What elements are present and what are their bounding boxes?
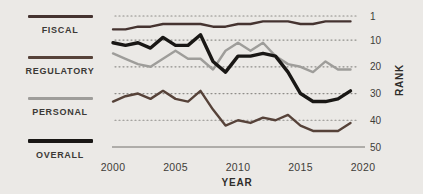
y-tick-label: 10 xyxy=(370,35,382,46)
legend-item-regulatory: REGULATORY xyxy=(8,56,112,76)
x-axis-title: YEAR xyxy=(113,177,361,188)
legend-swatch xyxy=(28,139,93,143)
legend-label-fiscal: FISCAL xyxy=(8,25,112,35)
regulatory-line xyxy=(113,91,351,131)
legend-swatch xyxy=(28,56,93,59)
legend-item-overall: OVERALL xyxy=(8,139,112,160)
freedom-rank-chart: 1102030405020002005201020152020 FISCAL R… xyxy=(0,0,423,194)
legend-swatch xyxy=(28,97,93,100)
fiscal-line xyxy=(113,21,351,29)
legend-item-personal: PERSONAL xyxy=(8,97,112,117)
legend-label-regulatory: REGULATORY xyxy=(8,66,112,76)
legend-swatch xyxy=(28,15,93,18)
x-tick-label: 2015 xyxy=(288,161,313,173)
overall-line xyxy=(113,35,351,102)
y-tick-label: 40 xyxy=(370,115,382,126)
x-tick-label: 2000 xyxy=(101,161,126,173)
y-axis-title: RANK xyxy=(379,60,419,100)
legend-item-fiscal: FISCAL xyxy=(8,15,112,35)
x-tick-label: 2020 xyxy=(351,161,376,173)
y-tick-label: 50 xyxy=(370,142,382,153)
y-tick-label: 1 xyxy=(370,11,376,22)
x-tick-label: 2005 xyxy=(163,161,188,173)
legend-label-overall: OVERALL xyxy=(8,150,112,160)
legend-label-personal: PERSONAL xyxy=(8,107,112,117)
x-tick-label: 2010 xyxy=(226,161,251,173)
